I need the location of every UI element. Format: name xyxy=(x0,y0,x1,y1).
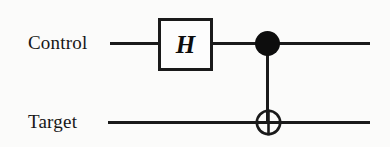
cnot-control-dot-icon xyxy=(255,31,280,56)
quantum-circuit-diagram: Control Target H xyxy=(0,0,390,147)
wire-label-control: Control xyxy=(28,33,87,52)
target-wire xyxy=(108,121,370,124)
control-wire-segment-left xyxy=(110,42,159,45)
control-wire-segment-right xyxy=(212,42,370,45)
cnot-target-xor-icon xyxy=(255,109,282,136)
hadamard-gate-label: H xyxy=(158,18,213,71)
wire-label-target: Target xyxy=(28,112,77,131)
